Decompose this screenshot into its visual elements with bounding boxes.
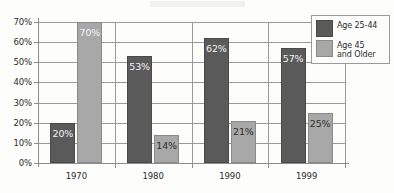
y-axis-tick-label: 60% <box>13 37 32 47</box>
legend-swatch-icon <box>316 20 333 37</box>
x-axis-tick <box>268 163 269 168</box>
bar-1990-series-0: 62% <box>204 38 229 163</box>
x-axis-tick <box>345 163 346 168</box>
group-separator <box>192 22 193 163</box>
y-axis-tick-label: 10% <box>13 138 32 148</box>
group-separator <box>268 22 269 163</box>
bar-value-label: 14% <box>155 140 178 151</box>
bar-value-label: 20% <box>51 128 74 139</box>
y-axis-tick-label: 70% <box>13 17 32 27</box>
legend-label: Age 25-44 <box>337 20 377 30</box>
scan-artifact <box>150 1 245 7</box>
bar-1980-series-0: 53% <box>127 56 152 163</box>
bar-value-label: 70% <box>78 27 101 38</box>
legend-swatch-icon <box>316 40 333 57</box>
legend-label: Age 45 and Older <box>337 40 376 59</box>
bar-1999-series-1: 25% <box>308 113 333 163</box>
y-axis-tick-label: 0% <box>19 158 32 168</box>
bar-1999-series-0: 57% <box>281 48 306 163</box>
x-axis-label-1980: 1980 <box>143 171 164 181</box>
y-axis-tick <box>34 103 39 104</box>
bar-1970-series-0: 20% <box>50 123 75 163</box>
y-axis-tick <box>34 143 39 144</box>
y-axis-tick-label: 50% <box>13 57 32 67</box>
legend: Age 25-44Age 45 and Older <box>311 15 390 64</box>
bar-1990-series-1: 21% <box>231 121 256 163</box>
bar-value-label: 53% <box>128 61 151 72</box>
plot-area: 0%10%20%30%40%50%60%70% 20%70%53%14%62%2… <box>38 22 345 163</box>
y-axis-tick <box>34 123 39 124</box>
y-axis-tick-label: 20% <box>13 118 32 128</box>
y-axis-line <box>38 18 39 167</box>
y-axis-tick <box>34 42 39 43</box>
x-axis-label-1970: 1970 <box>66 171 87 181</box>
bar-value-label: 62% <box>205 43 228 54</box>
x-axis-tick <box>192 163 193 168</box>
bar-value-label: 57% <box>282 53 305 64</box>
y-axis-tick <box>34 62 39 63</box>
bar-value-label: 25% <box>309 118 332 129</box>
y-axis-tick <box>34 163 39 164</box>
bar-1980-series-1: 14% <box>154 135 179 163</box>
legend-item-0: Age 25-44 <box>316 20 386 37</box>
bar-value-label: 21% <box>232 126 255 137</box>
y-axis-tick-label: 30% <box>13 98 32 108</box>
x-axis-tick <box>115 163 116 168</box>
bar-chart: 0%10%20%30%40%50%60%70% 20%70%53%14%62%2… <box>0 0 394 193</box>
y-axis-tick <box>34 22 39 23</box>
x-axis-label-1999: 1999 <box>296 171 317 181</box>
legend-item-1: Age 45 and Older <box>316 40 386 59</box>
group-separator <box>115 22 116 163</box>
x-axis-label-1990: 1990 <box>219 171 240 181</box>
y-axis-tick <box>34 82 39 83</box>
y-axis-tick-label: 40% <box>13 77 32 87</box>
bar-1970-series-1: 70% <box>77 22 102 163</box>
